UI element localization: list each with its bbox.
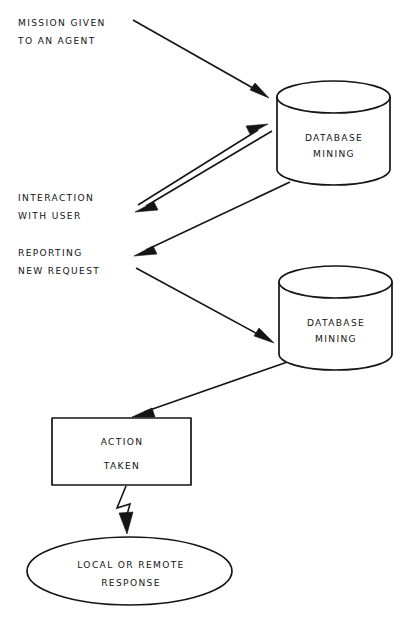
response-line2: RESPONSE (101, 578, 161, 588)
arrow-database-bottom-to-action (132, 359, 296, 417)
arrow-reporting-to-database-bottom (136, 268, 274, 343)
action-taken-line2: TAKEN (103, 461, 140, 471)
database-mining-bottom-line1: DATABASE (307, 318, 365, 328)
local-or-remote-response-ellipse[interactable]: LOCAL OR REMOTE RESPONSE (27, 537, 232, 605)
diagram-canvas: DATABASE MINING DATABASE MINING ACTION T… (0, 0, 413, 622)
database-mining-top-line2: MINING (313, 149, 355, 159)
mission-given-line2: TO AN AGENT (17, 36, 96, 46)
action-taken-line1: ACTION (101, 437, 144, 447)
action-taken-box[interactable]: ACTION TAKEN (52, 418, 191, 485)
arrow-action-to-response (117, 486, 133, 534)
mission-given-label: MISSION GIVEN TO AN AGENT (17, 18, 106, 46)
reporting-new-request-label: REPORTING NEW REQUEST (18, 248, 100, 276)
reporting-line2: NEW REQUEST (18, 266, 100, 276)
database-mining-cylinder-top[interactable]: DATABASE MINING (277, 81, 390, 185)
database-mining-cylinder-bottom[interactable]: DATABASE MINING (279, 266, 392, 370)
interaction-with-user-label: INTERACTION WITH USER (18, 193, 94, 221)
interaction-line1: INTERACTION (18, 193, 94, 203)
flow-diagram-svg: DATABASE MINING DATABASE MINING ACTION T… (0, 0, 413, 622)
response-line1: LOCAL OR REMOTE (77, 560, 184, 570)
database-mining-top-line1: DATABASE (305, 133, 363, 143)
interaction-line2: WITH USER (18, 211, 82, 221)
reporting-line1: REPORTING (18, 248, 83, 258)
arrow-mission-to-database-top (133, 20, 269, 98)
database-mining-bottom-line2: MINING (315, 334, 357, 344)
arrow-interaction-to-database-top (138, 124, 268, 205)
mission-given-line1: MISSION GIVEN (18, 18, 106, 28)
